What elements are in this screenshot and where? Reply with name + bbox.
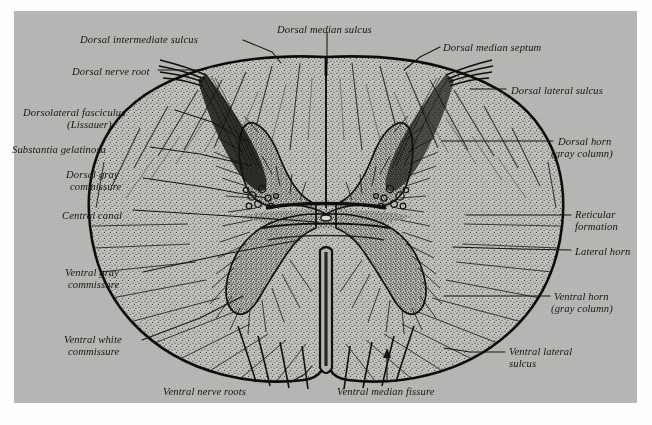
label-ventral-lateral-sulcus: Ventral lateral: [509, 346, 572, 357]
label-ventral-white-commissure-sub: commissure: [68, 346, 119, 357]
label-ventral-median-fissure: Ventral median fissure: [337, 386, 435, 397]
label-ventral-gray-commissure-sub: commissure: [68, 279, 119, 290]
label-dorsal-horn: Dorsal horn: [558, 136, 611, 147]
label-lateral-horn: Lateral horn: [575, 246, 630, 257]
label-dorsal-nerve-root: Dorsal nerve root: [72, 66, 150, 77]
label-dorsal-gray-commissure-sub: commissure: [70, 181, 121, 192]
label-dorsal-gray-commissure: Dorsal gray: [66, 169, 119, 180]
label-ventral-lateral-sulcus-sub: sulcus: [509, 358, 536, 369]
label-dorsal-horn-sub: (gray column): [551, 148, 613, 159]
label-dorsal-lateral-sulcus: Dorsal lateral sulcus: [511, 85, 603, 96]
label-ventral-white-commissure: Ventral white: [64, 334, 122, 345]
label-dorsolateral-fasciculus: Dorsolateral fasciculus: [23, 107, 126, 118]
label-reticular-formation-sub: formation: [575, 221, 618, 232]
label-dorsal-intermediate-sulcus: Dorsal intermediate sulcus: [80, 34, 198, 45]
spinal-cord-figure: Dorsal median sulcusDorsal intermediate …: [0, 0, 652, 425]
label-dorsal-median-septum: Dorsal median septum: [443, 42, 541, 53]
label-substantia-gelatinosa: Substantia gelatinosa: [12, 144, 106, 155]
label-central-canal: Central canal: [62, 210, 122, 221]
label-ventral-nerve-roots: Ventral nerve roots: [163, 386, 246, 397]
label-dorsolateral-fasciculus-sub: (Lissauer): [67, 119, 112, 130]
label-ventral-horn: Ventral horn: [554, 291, 609, 302]
label-dorsal-median-sulcus: Dorsal median sulcus: [277, 24, 372, 35]
label-reticular-formation: Reticular: [575, 209, 616, 220]
label-ventral-horn-sub: (gray column): [551, 303, 613, 314]
label-ventral-gray-commissure: Ventral gray: [65, 267, 119, 278]
central-canal-lumen: [321, 215, 331, 221]
